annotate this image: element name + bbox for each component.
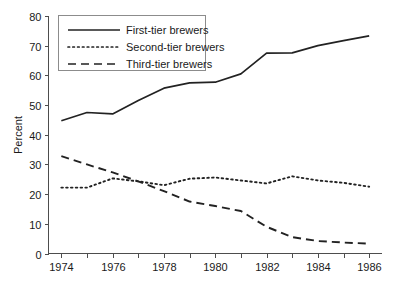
x-tick-label: 1980: [203, 261, 227, 273]
x-tick-label: 1986: [357, 261, 381, 273]
y-tick-label: 70: [29, 41, 41, 53]
y-tick-label: 30: [29, 159, 41, 171]
y-tick-label: 0: [35, 249, 41, 261]
line-chart: 01020304050607080 1974197619781980198219…: [0, 0, 396, 291]
x-tick-label: 1976: [101, 261, 125, 273]
y-axis-ticks: [45, 17, 49, 255]
chart-legend: First-tier brewersSecond-tier brewersThi…: [59, 16, 225, 71]
y-tick-label: 60: [29, 70, 41, 82]
x-tick-label: 1982: [255, 261, 279, 273]
y-tick-label: 20: [29, 189, 41, 201]
legend-label-3: Third-tier brewers: [126, 58, 213, 70]
chart-figure: 01020304050607080 1974197619781980198219…: [0, 0, 396, 291]
y-tick-label: 80: [29, 11, 41, 23]
legend-label-1: First-tier brewers: [126, 24, 209, 36]
y-tick-label: 10: [29, 219, 41, 231]
x-axis-tick-labels: 1974197619781980198219841986: [49, 261, 381, 273]
x-tick-label: 1978: [152, 261, 176, 273]
x-tick-label: 1984: [306, 261, 330, 273]
x-tick-label: 1974: [49, 261, 73, 273]
legend-label-2: Second-tier brewers: [126, 41, 225, 53]
y-tick-label: 50: [29, 100, 41, 112]
y-tick-label: 40: [29, 130, 41, 142]
y-axis-tick-labels: 01020304050607080: [29, 11, 41, 261]
y-axis-title: Percent: [12, 116, 24, 154]
x-axis-ticks: [62, 254, 370, 258]
